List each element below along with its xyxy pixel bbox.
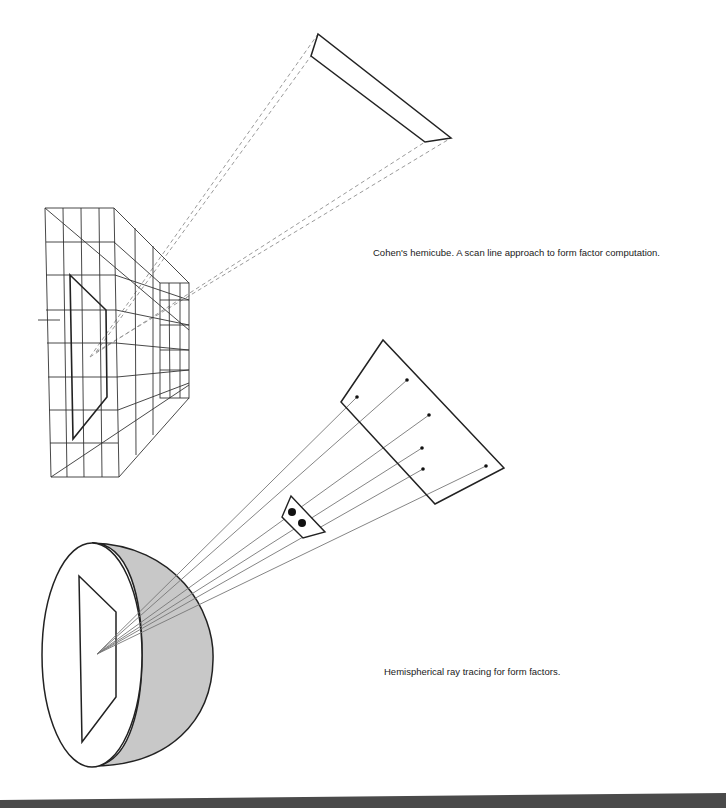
radiosity-diagram bbox=[0, 0, 728, 808]
occluder-patch bbox=[282, 496, 325, 538]
hemisphere-figure bbox=[42, 340, 504, 767]
hemisphere-base-disk bbox=[42, 543, 142, 767]
occluded-hit-point bbox=[288, 508, 296, 516]
ray-hit-points bbox=[355, 378, 488, 471]
target-surface-top bbox=[311, 34, 451, 142]
occluded-hit-point bbox=[298, 519, 306, 527]
hemicube-grid bbox=[38, 208, 189, 477]
hemisphere-caption: Hemispherical ray tracing for form facto… bbox=[384, 666, 560, 678]
target-surface-quad bbox=[341, 340, 504, 504]
hemicube-caption: Cohen's hemicube. A scan line approach t… bbox=[373, 247, 660, 259]
projection-lines bbox=[90, 34, 451, 357]
